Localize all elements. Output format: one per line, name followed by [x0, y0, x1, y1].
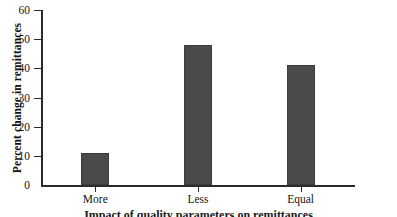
bar-equal: [287, 65, 315, 185]
y-tick-label: 10: [0, 150, 30, 162]
y-tick-mark: [34, 98, 41, 99]
figure-caption: Impact of quality parameters on remittan…: [0, 209, 397, 217]
y-tick-mark: [34, 156, 41, 157]
y-tick-mark: [34, 39, 41, 40]
y-tick-label: 60: [0, 4, 30, 16]
x-tick-mark: [198, 187, 199, 192]
y-tick-mark: [34, 68, 41, 69]
y-tick-mark: [34, 10, 41, 11]
x-tick-mark: [95, 187, 96, 192]
x-category-label-less: Less: [153, 193, 243, 205]
bar-more: [81, 153, 109, 185]
bar-chart-figure: Percent change in remittances 0102030405…: [0, 0, 397, 217]
x-category-label-more: More: [50, 193, 140, 205]
y-tick-mark: [34, 127, 41, 128]
y-axis-line: [41, 10, 43, 187]
y-tick-label: 0: [0, 179, 30, 191]
y-tick-label: 30: [0, 92, 30, 104]
y-tick-label: 20: [0, 121, 30, 133]
y-tick-label: 50: [0, 33, 30, 45]
x-tick-mark: [301, 187, 302, 192]
bar-less: [184, 45, 212, 185]
y-tick-label: 40: [0, 62, 30, 74]
x-category-label-equal: Equal: [256, 193, 346, 205]
